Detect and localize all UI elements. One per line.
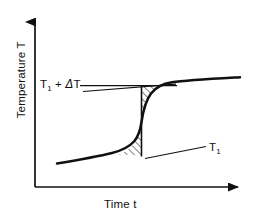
label-upper-variable: T	[74, 78, 81, 90]
y-axis-label: Temperature T	[16, 25, 28, 135]
delta-symbol: Δ	[65, 77, 73, 91]
label-upper-level: T1 + ΔT	[40, 79, 81, 93]
plot-canvas	[0, 0, 259, 218]
label-lower-level: T1	[209, 142, 221, 156]
label-upper-subscript: 1	[47, 84, 51, 93]
label-upper-plus: +	[55, 78, 62, 90]
x-axis-label: Time t	[104, 199, 137, 211]
lower-asymptote-line	[145, 147, 206, 159]
temperature-time-diagram: Temperature T Time t T1 + ΔT T1	[0, 0, 259, 218]
label-lower-subscript: 1	[216, 147, 220, 156]
